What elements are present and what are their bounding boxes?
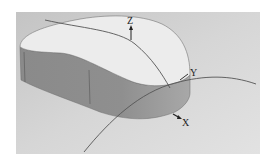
z-axis-label: Z bbox=[127, 15, 133, 26]
y-axis-label: Y bbox=[190, 67, 197, 78]
solid-model-figure: Z Y X bbox=[0, 0, 275, 168]
x-axis-label: X bbox=[182, 117, 190, 128]
